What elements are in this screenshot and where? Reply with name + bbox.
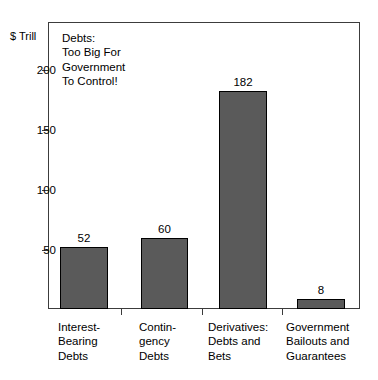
x-label-line-2: Bearing bbox=[58, 334, 100, 348]
bar-value-contingency-debts: 60 bbox=[141, 223, 188, 235]
y-tick-label-150: 150 bbox=[0, 124, 56, 136]
x-tick-mark-2 bbox=[202, 309, 203, 315]
y-tick-label-100: 100 bbox=[0, 184, 56, 196]
x-tick-mark-3 bbox=[282, 309, 283, 315]
annotation-line-3: Government bbox=[62, 60, 125, 74]
bar-chart: $ Trill Debts: Too Big For Government To… bbox=[0, 0, 378, 380]
x-label-line-2: gency bbox=[139, 334, 176, 348]
x-label-line-1: Interest- bbox=[58, 320, 100, 334]
x-tick-mark-1 bbox=[121, 309, 122, 315]
bar-contingency-debts bbox=[141, 238, 188, 309]
x-label-line-3: Guarantees bbox=[286, 349, 349, 363]
x-label-line-2: Bailouts and bbox=[286, 334, 349, 348]
x-label-line-1: Government bbox=[286, 320, 349, 334]
x-axis-label-contingency-debts: Contin- gency Debts bbox=[139, 320, 176, 363]
x-label-line-1: Contin- bbox=[139, 320, 176, 334]
x-label-line-3: Debts bbox=[58, 349, 100, 363]
y-tick-label-50: 50 bbox=[0, 244, 56, 256]
annotation-line-4: To Control! bbox=[62, 74, 125, 88]
x-axis-label-government-bailouts-and-guarantees: Government Bailouts and Guarantees bbox=[286, 320, 349, 363]
bar-value-interest-bearing-debts: 52 bbox=[60, 232, 108, 244]
bar-interest-bearing-debts bbox=[60, 247, 108, 309]
bar-value-government-bailouts-and-guarantees: 8 bbox=[297, 284, 345, 296]
x-label-line-2: Debts and bbox=[208, 334, 268, 348]
annotation-line-1: Debts: bbox=[62, 31, 125, 45]
x-label-line-3: Bets bbox=[208, 349, 268, 363]
headline-annotation: Debts: Too Big For Government To Control… bbox=[62, 31, 125, 89]
x-axis-label-derivatives-debts-and-bets: Derivatives: Debts and Bets bbox=[208, 320, 268, 363]
y-axis-unit-label: $ Trill bbox=[10, 30, 36, 42]
x-label-line-3: Debts bbox=[139, 349, 176, 363]
bar-value-derivatives-debts-and-bets: 182 bbox=[219, 76, 267, 88]
x-axis-label-interest-bearing-debts: Interest- Bearing Debts bbox=[58, 320, 100, 363]
y-tick-label-200: 200 bbox=[0, 64, 56, 76]
annotation-line-2: Too Big For bbox=[62, 45, 125, 59]
bar-government-bailouts-and-guarantees bbox=[297, 299, 345, 309]
x-label-line-1: Derivatives: bbox=[208, 320, 268, 334]
bar-derivatives-debts-and-bets bbox=[219, 91, 267, 309]
